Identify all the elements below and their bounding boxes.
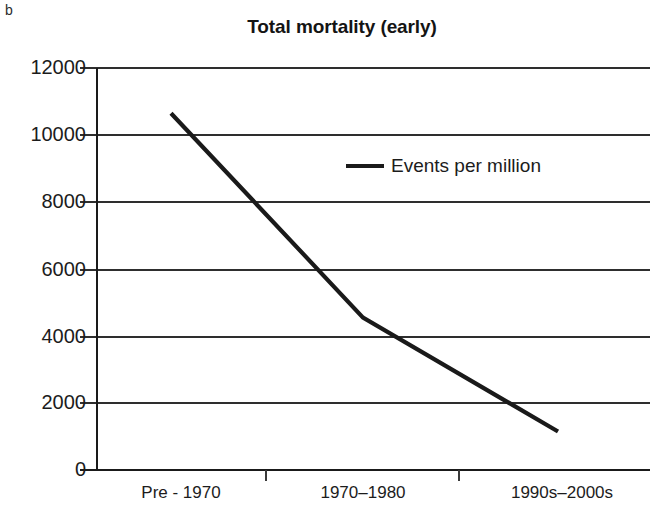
figure-panel-b: b Total mortality (early) 12000 10000 80 (0, 0, 650, 518)
y-tick-label: 12000 (0, 57, 86, 77)
y-tick-label: 2000 (0, 392, 86, 412)
legend-line-swatch-icon (346, 164, 384, 168)
legend-label-events-per-million: Events per million (391, 156, 541, 176)
y-tick-label: 8000 (0, 191, 86, 211)
gridlines (80, 68, 650, 403)
y-tick-label: 10000 (0, 124, 86, 144)
y-tick-label: 6000 (0, 259, 86, 279)
x-tick-label-1990s-2000s: 1990s–2000s (487, 484, 637, 502)
x-tick-label-1970-1980: 1970–1980 (298, 484, 428, 502)
x-tick-label-pre-1970: Pre - 1970 (116, 484, 246, 502)
chart-legend: Events per million (346, 156, 541, 176)
plot-area (0, 0, 650, 518)
x-axis-ticks (266, 470, 459, 481)
y-tick-label: 0 (0, 459, 86, 479)
y-tick-label: 4000 (0, 326, 86, 346)
